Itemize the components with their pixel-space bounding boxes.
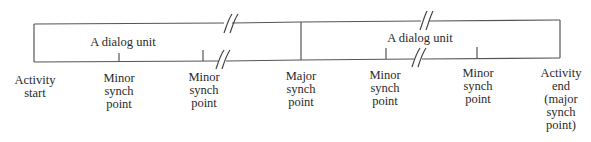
minor-synch-point-label-2: Minor synch point	[188, 71, 219, 110]
bottom-line-left	[34, 61, 218, 62]
minor-synch-point-label-3: Minor synch point	[369, 69, 400, 108]
activity-start-label: Activity start	[15, 74, 56, 100]
activity-timeline-diagram: A dialog unit A dialog unit Activity sta…	[0, 0, 591, 142]
bottom-line-end	[422, 58, 560, 59]
activity-end-label: Activity end (major synch point)	[541, 67, 582, 132]
top-line-left	[34, 23, 224, 24]
top-line-mid	[232, 22, 301, 23]
break-mark-top-right-a	[420, 11, 427, 30]
top-line-end	[429, 20, 560, 21]
break-mark-bottom-right-b	[418, 48, 426, 67]
major-synch-point-label: Major synch point	[286, 70, 317, 109]
top-line-right	[301, 21, 421, 22]
minor-synch-point-label-4: Minor synch point	[462, 67, 493, 106]
break-mark-bottom-left-b	[222, 50, 230, 69]
dialog-unit-label-2: A dialog unit	[387, 31, 452, 46]
bottom-line-mid	[226, 60, 301, 61]
dialog-unit-label-1: A dialog unit	[90, 35, 155, 50]
minor-synch-point-label-1: Minor synch point	[103, 72, 134, 111]
bottom-line-right	[301, 59, 414, 60]
